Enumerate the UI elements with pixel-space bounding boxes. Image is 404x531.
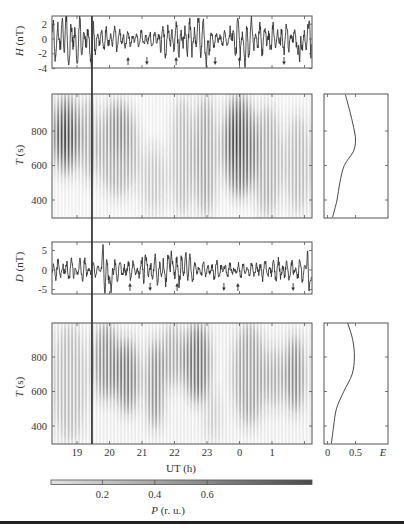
- x-axis-label: UT (h): [166, 462, 196, 475]
- d-spectrogram-plot: [40, 313, 330, 454]
- h-spec-ylabel: T (s): [13, 144, 26, 165]
- bottom-rule: [0, 521, 404, 524]
- e-tick-label: 0: [325, 447, 330, 458]
- h-energy-frame: [324, 94, 388, 218]
- figure-canvas: 2 0 -2 -4 H (nT) 800 600 400 T (s) 5 0 -…: [0, 0, 404, 531]
- h-spectrogram-plot: [40, 84, 330, 228]
- d-spec-ylabel: T (s): [13, 376, 26, 397]
- arrow-up-icon: [126, 57, 130, 65]
- d-ytick-label: -5: [38, 284, 47, 295]
- d-spectrogram-panel: 800 600 400 T (s) 19 20 21 22 23 0 1 UT …: [13, 313, 330, 475]
- h-energy-panel: [324, 94, 388, 218]
- x-tick-label: 23: [202, 447, 213, 458]
- x-tick-label: 19: [72, 447, 83, 458]
- arrow-up-icon: [174, 57, 178, 65]
- h-ytick-label: 2: [42, 19, 47, 30]
- d-ytick-label: 0: [42, 265, 47, 276]
- arrow-down-icon: [282, 57, 286, 65]
- d-waveform-panel: 5 0 -5 D (nT): [13, 242, 312, 295]
- h-spec-ytick-label: 800: [31, 126, 47, 137]
- h-waveform-panel: 2 0 -2 -4 H (nT): [13, 14, 312, 74]
- arrow-down-icon: [213, 57, 217, 65]
- h-spectrogram-panel: 800 600 400 T (s): [13, 84, 330, 228]
- e-axis-label: E: [379, 447, 387, 458]
- colorbar: 0.2 0.4 0.6 P (r. u.): [51, 480, 312, 517]
- colorbar-label: P (r. u.): [150, 504, 185, 517]
- d-spec-ytick-label: 600: [31, 386, 47, 397]
- h-ytick-label: -4: [38, 63, 47, 74]
- d-ytick-label: 5: [42, 245, 47, 256]
- h-spec-ytick-label: 600: [31, 160, 47, 171]
- colorbar-gradient: [51, 480, 312, 485]
- h-energy-ticks: [324, 94, 388, 218]
- d-waveform-frame: [52, 242, 312, 294]
- arrow-up-icon: [175, 283, 179, 291]
- d-ylabel: D (nT): [13, 252, 26, 284]
- d-spec-ytick-label: 800: [31, 352, 47, 363]
- h-energy-curve: [333, 95, 356, 217]
- colorbar-tick-label: 0.4: [148, 489, 162, 500]
- d-energy-curve: [331, 323, 354, 443]
- d-spec-ytick-label: 400: [31, 421, 47, 432]
- e-tick-label: 0.5: [349, 447, 362, 458]
- h-ylabel: H (nT): [13, 26, 26, 58]
- arrow-up-icon: [128, 283, 132, 291]
- x-tick-label: 21: [137, 447, 148, 458]
- h-ytick-label: 0: [42, 34, 47, 45]
- arrow-down-icon: [291, 283, 295, 291]
- colorbar-tick-label: 0.2: [96, 489, 109, 500]
- h-ytick-label: -2: [38, 48, 47, 59]
- figure: 2 0 -2 -4 H (nT) 800 600 400 T (s) 5 0 -…: [0, 0, 404, 531]
- arrow-down-icon: [148, 283, 152, 291]
- arrow-up-icon: [236, 283, 240, 291]
- arrow-up-icon: [238, 57, 242, 65]
- colorbar-tick-label: 0.6: [201, 489, 214, 500]
- x-tick-label: 22: [169, 447, 180, 458]
- d-waveform-ticks: [52, 242, 312, 294]
- x-tick-label: 1: [269, 447, 274, 458]
- d-energy-panel: 0 0.5 E: [324, 323, 388, 458]
- h-spec-ytick-label: 400: [31, 195, 47, 206]
- x-tick-label: 20: [104, 447, 115, 458]
- x-tick-label: 0: [237, 447, 242, 458]
- arrow-down-icon: [145, 57, 149, 65]
- arrow-down-icon: [222, 283, 226, 291]
